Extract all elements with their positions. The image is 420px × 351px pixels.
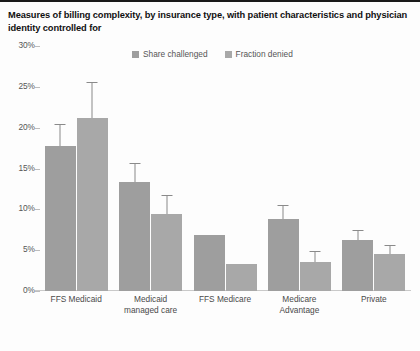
error-bar-cap-upper xyxy=(129,163,140,164)
chart-title: Measures of billing complexity, by insur… xyxy=(8,9,412,35)
bar-group xyxy=(39,46,113,291)
y-tick-label: 15% xyxy=(3,163,35,173)
y-tick-label: 5% xyxy=(3,244,35,254)
error-bar-cap-upper xyxy=(384,245,395,246)
bar[interactable] xyxy=(77,118,108,291)
bar-wrapper xyxy=(45,146,76,291)
x-axis-label: FFS Medicare xyxy=(188,294,262,316)
chart-figure: Measures of billing complexity, by insur… xyxy=(0,0,420,351)
x-axis-label: FFS Medicaid xyxy=(39,294,113,316)
plot-area: 30%25%20%15%10%5%0% xyxy=(39,46,411,291)
error-bar-cap-upper xyxy=(310,251,321,252)
error-bar-cap-upper xyxy=(87,82,98,83)
bar[interactable] xyxy=(374,254,405,291)
bar[interactable] xyxy=(194,235,225,291)
bar-wrapper xyxy=(226,264,257,291)
x-axis-labels: FFS MedicaidMedicaidmanaged careFFS Medi… xyxy=(39,294,411,316)
bar[interactable] xyxy=(268,219,299,291)
bar[interactable] xyxy=(342,240,373,291)
bar-wrapper xyxy=(300,262,331,291)
bar-group xyxy=(188,46,262,291)
bar[interactable] xyxy=(119,182,150,291)
bar-wrapper xyxy=(194,235,225,291)
error-bar-cap-upper xyxy=(161,195,172,196)
x-axis-label: Private xyxy=(337,294,411,316)
y-tick-label: 30% xyxy=(3,40,35,50)
error-bar-cap-upper xyxy=(55,124,66,125)
y-tick-mark xyxy=(35,291,40,292)
bar-wrapper xyxy=(268,219,299,291)
y-tick-label: 20% xyxy=(3,122,35,132)
bar-groups xyxy=(39,46,411,291)
y-tick-label: 10% xyxy=(3,203,35,213)
x-axis-label: MedicareAdvantage xyxy=(262,294,336,316)
bar[interactable] xyxy=(226,264,257,291)
bar-wrapper xyxy=(151,214,182,291)
bar-group xyxy=(262,46,336,291)
bar[interactable] xyxy=(300,262,331,291)
bar-wrapper xyxy=(342,240,373,291)
bar-wrapper xyxy=(77,118,108,291)
error-bar-cap-upper xyxy=(278,205,289,206)
y-tick-label: 25% xyxy=(3,81,35,91)
bar[interactable] xyxy=(45,146,76,291)
bar-group xyxy=(337,46,411,291)
y-tick-label: 0% xyxy=(3,285,35,295)
error-bar-cap-upper xyxy=(352,230,363,231)
bar-wrapper xyxy=(374,254,405,291)
bar-wrapper xyxy=(119,182,150,291)
x-axis-label: Medicaidmanaged care xyxy=(113,294,187,316)
bar[interactable] xyxy=(151,214,182,291)
bar-group xyxy=(113,46,187,291)
